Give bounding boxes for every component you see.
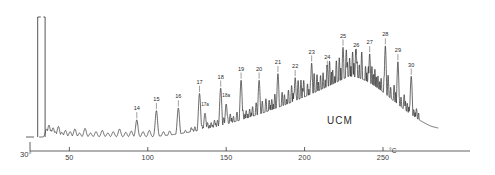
peak-label: 16	[175, 93, 181, 99]
peak-label: 22	[292, 63, 298, 69]
origin-temperature-label: 30°	[20, 150, 31, 159]
peak-label: 18a	[222, 93, 230, 98]
x-axis-tick-label: 100	[141, 153, 154, 162]
peak-label: 14	[134, 105, 140, 111]
peak-label: 29	[395, 47, 401, 53]
chromatogram-figure: 50100150200250 1415161717a1818a192021222…	[0, 0, 495, 175]
peak-label: 26	[353, 42, 359, 48]
peak-label: 21	[275, 59, 281, 65]
peak-label: 25	[340, 33, 346, 39]
x-axis-unit-label: °C	[389, 147, 397, 154]
peak-label: 15	[153, 96, 159, 102]
x-axis-tick-label: 250	[377, 153, 390, 162]
ucm-annotation: UCM	[327, 115, 353, 126]
peak-label: 17	[196, 79, 202, 85]
peak-label: 30	[408, 62, 414, 68]
x-axis-tick-label: 150	[220, 153, 233, 162]
plot-background	[0, 0, 495, 175]
peak-label: 28	[382, 31, 388, 37]
peak-label: 18	[218, 74, 224, 80]
peak-label: 23	[309, 49, 315, 55]
peak-label: 19	[238, 66, 244, 72]
chromatogram-plot: 50100150200250 1415161717a1818a192021222…	[0, 0, 495, 175]
peak-label: 20	[256, 66, 262, 72]
x-axis-tick-label: 50	[65, 153, 73, 162]
peak-label: 17a	[201, 102, 209, 107]
peak-label: 24	[324, 54, 330, 60]
peak-label: 27	[367, 39, 373, 45]
x-axis-tick-label: 200	[298, 153, 311, 162]
